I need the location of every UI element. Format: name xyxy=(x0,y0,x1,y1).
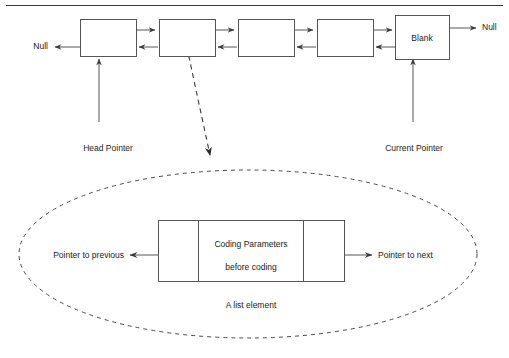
detail-payload-cell xyxy=(198,220,304,282)
null-left-label: Null xyxy=(33,42,48,51)
diagram-canvas: Blank Null Null Head Pointer Current Poi… xyxy=(0,0,509,358)
head-pointer-label: Head Pointer xyxy=(83,144,133,153)
list-node-2 xyxy=(159,19,216,57)
null-right-label: Null xyxy=(482,23,497,32)
blank-node-label: Blank xyxy=(411,33,432,43)
list-node-3 xyxy=(238,19,295,57)
detail-caption: A list element xyxy=(226,301,277,310)
payload-line-2: before coding xyxy=(225,263,277,272)
payload-line-1: Coding Parameters xyxy=(214,240,287,249)
pointer-to-next-label: Pointer to next xyxy=(378,251,433,260)
current-pointer-label: Current Pointer xyxy=(385,144,443,153)
list-node-4 xyxy=(317,19,374,57)
detail-next-pointer-cell xyxy=(303,220,345,282)
pointer-to-previous-label: Pointer to previous xyxy=(53,251,124,260)
list-node-1 xyxy=(80,19,137,57)
detail-prev-pointer-cell xyxy=(158,220,199,282)
